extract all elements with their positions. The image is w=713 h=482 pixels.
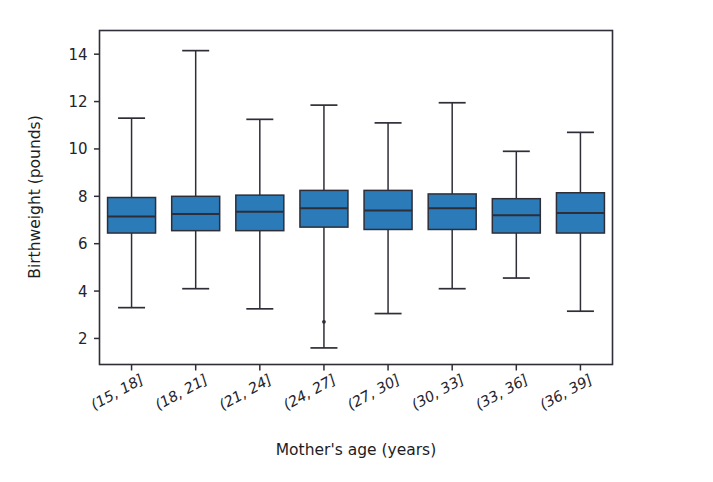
y-axis-ticks: 2468101214 bbox=[68, 46, 99, 348]
boxplot-figure: 2468101214 (15, 18](18, 21](21, 24](24, … bbox=[0, 0, 713, 482]
y-tick-label: 12 bbox=[68, 93, 87, 111]
x-tick-label: (18, 21] bbox=[152, 371, 210, 413]
box-group bbox=[108, 118, 156, 308]
box-group bbox=[492, 151, 540, 278]
box-body bbox=[428, 194, 476, 230]
x-axis-label: Mother's age (years) bbox=[276, 441, 436, 459]
y-tick-label: 8 bbox=[78, 188, 88, 206]
x-tick-label: (24, 27] bbox=[280, 371, 338, 413]
x-tick-label: (21, 24] bbox=[216, 371, 274, 413]
x-tick-label: (36, 39] bbox=[537, 371, 595, 413]
box-group bbox=[172, 51, 220, 289]
outlier-point bbox=[322, 320, 326, 324]
box-group bbox=[236, 119, 284, 309]
y-axis-label: Birthweight (pounds) bbox=[26, 115, 44, 278]
x-tick-label: (27, 30] bbox=[345, 371, 403, 413]
box-group bbox=[428, 103, 476, 289]
y-tick-label: 6 bbox=[78, 235, 88, 253]
x-tick-label: (15, 18] bbox=[88, 371, 146, 413]
boxplot-series bbox=[108, 51, 605, 348]
y-tick-label: 4 bbox=[78, 283, 88, 301]
x-tick-label: (30, 33] bbox=[409, 371, 467, 413]
y-tick-label: 14 bbox=[68, 46, 87, 64]
box-body bbox=[236, 195, 284, 231]
box-group bbox=[300, 105, 348, 348]
plot-canvas: 2468101214 (15, 18](18, 21](21, 24](24, … bbox=[0, 0, 713, 482]
y-tick-label: 10 bbox=[68, 140, 87, 158]
box-group bbox=[364, 123, 412, 314]
box-body bbox=[108, 198, 156, 234]
box-group bbox=[556, 132, 604, 311]
y-tick-label: 2 bbox=[78, 330, 88, 348]
x-tick-label: (33, 36] bbox=[473, 371, 531, 413]
x-axis-ticks: (15, 18](18, 21](21, 24](24, 27](27, 30]… bbox=[88, 365, 595, 413]
